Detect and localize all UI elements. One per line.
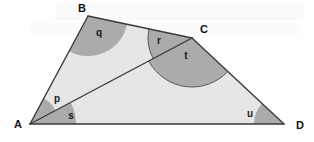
angle-label-r: r: [157, 35, 161, 46]
angle-label-s: s: [68, 110, 74, 121]
geometry-figure: A B C D p q r s t u: [0, 0, 314, 142]
angle-label-q: q: [96, 27, 102, 38]
angle-label-p: p: [54, 93, 60, 104]
vertex-label-d: D: [296, 119, 304, 131]
vertex-label-b: B: [78, 2, 86, 14]
angle-label-u: u: [247, 108, 253, 119]
vertex-label-c: C: [200, 23, 208, 35]
geometry-diagram-canvas: A B C D p q r s t u: [0, 0, 314, 142]
vertex-label-a: A: [14, 118, 22, 130]
background-watermark: [30, 2, 305, 36]
